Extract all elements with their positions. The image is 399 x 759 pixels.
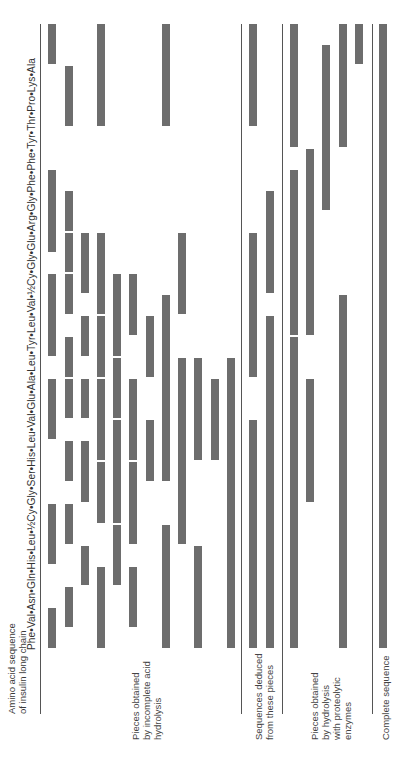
label-line: Sequences deduced	[253, 653, 264, 740]
piece-bar-acid	[97, 379, 105, 461]
piece-bar-acid	[146, 420, 154, 481]
piece-bar-acid	[81, 441, 89, 502]
piece-bar-acid	[113, 274, 121, 356]
piece-bar-acid	[48, 379, 56, 440]
piece-bar-acid	[81, 233, 89, 294]
piece-bar-deduced	[249, 24, 257, 126]
piece-bar-enzymes	[290, 170, 298, 335]
piece-bar-acid	[113, 420, 121, 522]
piece-bar-enzymes	[306, 149, 314, 335]
piece-bar-acid	[113, 525, 121, 586]
piece-bar-complete	[379, 24, 387, 648]
section-label-enzymes: Pieces obtained by hydrolysis with prote…	[309, 672, 353, 740]
piece-bar-deduced	[249, 233, 257, 377]
section-label-deduced: Sequences deduced from these pieces	[253, 653, 275, 740]
label-line: by incomplete acid	[141, 661, 152, 740]
piece-bar-acid	[97, 567, 105, 649]
label-line: with proteolytic	[331, 672, 342, 740]
piece-bar-acid	[48, 504, 56, 565]
piece-bar-acid	[65, 441, 73, 481]
piece-bar-enzymes	[290, 24, 298, 147]
piece-bar-acid	[65, 337, 73, 377]
piece-bar-enzymes	[322, 45, 330, 210]
piece-bar-deduced	[266, 316, 274, 418]
piece-bar-acid	[97, 24, 105, 126]
piece-bar-acid	[81, 546, 89, 586]
piece-bar-acid	[48, 24, 56, 64]
piece-bar-acid	[194, 546, 202, 648]
piece-bar-acid	[162, 525, 170, 648]
label-line: by hydrolysis	[320, 672, 331, 740]
label-line: Pieces obtained	[309, 672, 320, 740]
label-line: from these pieces	[264, 653, 275, 740]
piece-bar-deduced	[266, 191, 274, 293]
piece-bar-enzymes	[339, 24, 347, 147]
piece-bar-acid	[48, 170, 56, 252]
piece-bar-acid	[162, 24, 170, 126]
piece-bar-acid	[65, 233, 73, 273]
piece-bar-acid	[129, 379, 137, 461]
piece-bar-acid	[227, 358, 235, 648]
piece-bar-acid	[178, 420, 186, 543]
piece-bar-acid	[211, 379, 219, 461]
piece-bar-acid	[113, 358, 121, 419]
section-label-complete: Complete sequence	[380, 656, 391, 741]
piece-bar-acid	[129, 567, 137, 628]
piece-bar-acid	[162, 358, 170, 481]
label-line: Pieces obtained	[130, 661, 141, 740]
label-line: hydrolysis	[152, 661, 163, 740]
piece-bar-acid	[129, 274, 137, 335]
piece-bar-acid	[97, 462, 105, 523]
piece-bar-deduced	[249, 420, 257, 648]
piece-bar-acid	[65, 191, 73, 231]
piece-bar-acid	[97, 233, 105, 315]
label-line: Complete sequence	[380, 656, 391, 741]
piece-bar-acid	[81, 379, 89, 419]
piece-bar-enzymes	[355, 24, 363, 64]
piece-bar-enzymes	[306, 379, 314, 502]
piece-bar-acid	[65, 274, 73, 314]
piece-bar-acid	[81, 316, 89, 356]
piece-bar-acid	[178, 233, 186, 315]
piece-bar-acid	[65, 379, 73, 419]
piece-bar-acid	[48, 274, 56, 356]
piece-bar-acid	[129, 462, 137, 544]
label-line: enzymes	[342, 672, 353, 740]
piece-bar-acid	[65, 66, 73, 127]
piece-bar-deduced	[266, 379, 274, 648]
pieces-diagram	[0, 0, 399, 759]
piece-bar-acid	[65, 587, 73, 627]
piece-bar-acid	[65, 504, 73, 544]
piece-bar-acid	[97, 316, 105, 377]
section-label-acid: Pieces obtained by incomplete acid hydro…	[130, 661, 163, 740]
piece-bar-enzymes	[290, 337, 298, 648]
piece-bar-acid	[194, 358, 202, 460]
piece-bar-acid	[146, 316, 154, 377]
piece-bar-enzymes	[339, 295, 347, 648]
piece-bar-acid	[48, 608, 56, 648]
